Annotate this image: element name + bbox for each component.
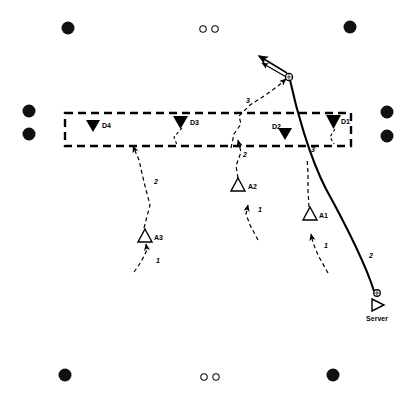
player-marker-server[interactable]: Server bbox=[366, 299, 388, 322]
step-label-a3-1: 1 bbox=[156, 257, 160, 264]
center-dot-top-left bbox=[200, 26, 206, 32]
center-dot-top-right bbox=[212, 26, 218, 32]
player-label-d4: D4 bbox=[102, 122, 111, 129]
hollow-right-triangle-icon bbox=[372, 299, 384, 311]
boundary-marker-group bbox=[23, 21, 394, 382]
corner-dot-bottom-right bbox=[327, 369, 340, 382]
path-a3-step1 bbox=[134, 244, 147, 272]
attacker-group: A1 A2 A3 bbox=[138, 178, 328, 242]
path-d3-approach bbox=[174, 128, 182, 145]
step-label-set-3: 3 bbox=[246, 97, 250, 104]
net-zone bbox=[65, 113, 351, 146]
filled-down-triangle-icon bbox=[173, 116, 188, 129]
player-label-d1: D1 bbox=[341, 118, 350, 125]
side-dot-right-lower bbox=[381, 130, 394, 143]
corner-dot-bottom-left bbox=[59, 369, 72, 382]
player-marker-a3[interactable]: A3 bbox=[138, 229, 163, 242]
step-label-pass-3: 3 bbox=[311, 146, 315, 153]
volleyball-play-diagram: D4 D3 D2 D1 A1 A2 bbox=[0, 0, 419, 400]
hollow-up-triangle-icon bbox=[231, 178, 245, 191]
player-label-d3: D3 bbox=[190, 119, 199, 126]
player-marker-a1[interactable]: A1 bbox=[303, 207, 328, 220]
player-marker-d2[interactable]: D2 bbox=[272, 123, 292, 140]
step-label-a3-2: 2 bbox=[153, 178, 158, 185]
filled-down-triangle-icon bbox=[326, 115, 341, 129]
step-number-group: 1 2 1 2 1 3 2 3 bbox=[153, 97, 373, 264]
step-label-a2-2: 2 bbox=[242, 151, 247, 158]
filled-down-triangle-icon bbox=[86, 120, 100, 132]
path-a2-step1 bbox=[246, 205, 258, 240]
ball-group bbox=[285, 73, 380, 296]
attack-hit-line-upper bbox=[259, 56, 287, 73]
hollow-up-triangle-icon bbox=[303, 207, 317, 220]
path-serve-trajectory bbox=[290, 80, 374, 291]
step-label-a2-1: 1 bbox=[258, 206, 262, 213]
corner-dot-top-left bbox=[62, 22, 75, 35]
side-dot-right-upper bbox=[381, 106, 394, 119]
path-a1-step1 bbox=[311, 234, 328, 273]
player-label-server: Server bbox=[366, 315, 388, 322]
player-label-d2: D2 bbox=[272, 123, 281, 130]
corner-dot-top-right bbox=[344, 21, 357, 34]
path-attack-hit bbox=[259, 56, 288, 78]
player-marker-d3[interactable]: D3 bbox=[173, 116, 199, 129]
step-label-serve-2: 2 bbox=[368, 252, 373, 259]
player-marker-d1[interactable]: D1 bbox=[326, 115, 350, 129]
court-svg: D4 D3 D2 D1 A1 A2 bbox=[0, 0, 419, 400]
hollow-up-triangle-icon bbox=[138, 229, 152, 242]
path-d1-approach bbox=[330, 129, 335, 144]
side-dot-left-upper bbox=[23, 105, 36, 118]
defender-group: D4 D3 D2 D1 bbox=[86, 115, 350, 140]
player-marker-d4[interactable]: D4 bbox=[86, 120, 111, 132]
path-a1-step2 bbox=[307, 158, 309, 207]
player-marker-a2[interactable]: A2 bbox=[231, 178, 257, 191]
center-dot-bottom-left bbox=[201, 374, 207, 380]
path-a3-step2 bbox=[133, 146, 150, 228]
player-label-a3: A3 bbox=[154, 234, 163, 241]
player-label-a1: A1 bbox=[319, 212, 328, 219]
player-label-a2: A2 bbox=[248, 183, 257, 190]
side-dot-left-lower bbox=[23, 128, 36, 141]
step-label-a1-1: 1 bbox=[324, 242, 328, 249]
center-dot-bottom-right bbox=[213, 374, 219, 380]
